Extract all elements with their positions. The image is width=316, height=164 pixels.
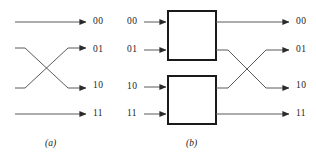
- panel-b-input-label-0: 00: [127, 17, 137, 27]
- panel-b-input-label-1: 01: [127, 45, 137, 55]
- panel-b-input-wires: [144, 22, 166, 114]
- panel-a-caption: (a): [45, 139, 56, 149]
- panel-b-boxes: [168, 11, 216, 124]
- panel-a-output-label-3: 11: [93, 109, 103, 119]
- wire-b-out-cross-upper: [216, 50, 289, 88]
- wire-b-out-cross-lower: [216, 50, 289, 88]
- wire-a-cross-lower: [15, 48, 86, 88]
- permutation-network-figure: 00 01 10 11 (a) 00 01 10 11 00 01 10 11 …: [0, 0, 316, 164]
- panel-b-output-label-0: 00: [296, 17, 306, 27]
- panel-b-output-wires: [216, 22, 289, 114]
- panel-b-input-label-3: 11: [127, 109, 137, 119]
- panel-a-output-label-1: 01: [93, 45, 103, 55]
- panel-a-wires: [15, 22, 86, 114]
- wire-a-cross-upper: [15, 48, 86, 88]
- panel-a-output-label-2: 10: [93, 81, 103, 91]
- upper-box: [168, 11, 216, 60]
- panel-b-output-label-2: 10: [296, 81, 306, 91]
- panel-b-input-label-2: 10: [127, 82, 137, 92]
- lower-box: [168, 76, 216, 124]
- panel-b-output-label-1: 01: [296, 45, 306, 55]
- panel-a-output-label-0: 00: [93, 17, 103, 27]
- panel-b-caption: (b): [186, 139, 197, 149]
- panel-b-output-label-3: 11: [296, 109, 306, 119]
